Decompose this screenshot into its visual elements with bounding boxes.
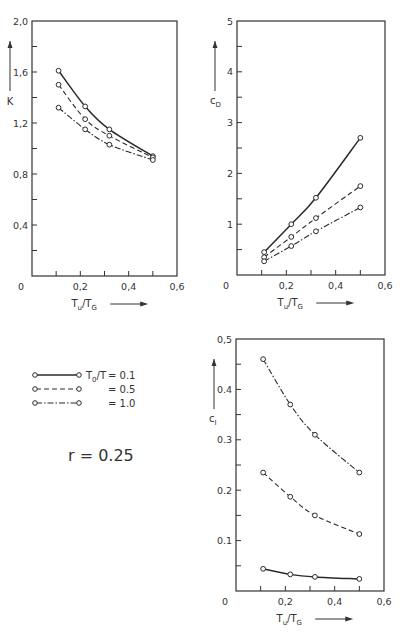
data-point-marker [56, 68, 61, 73]
data-point-marker [262, 250, 267, 255]
x-tick-label: 0,4 [328, 280, 343, 291]
x-tick-label: 0 [18, 281, 24, 292]
data-point-marker [357, 532, 362, 537]
data-point-marker [150, 158, 155, 163]
chart-ci: 00,20,40,60.10.20.30.40,5cITu/TG [209, 334, 392, 628]
data-point-marker [288, 402, 293, 407]
y-axis-label: K [7, 96, 14, 107]
x-tick-label: 0,6 [376, 596, 391, 607]
data-point-marker [83, 104, 88, 109]
data-point-marker [56, 105, 61, 110]
series-line-solid [263, 569, 359, 579]
series-line-dashed [59, 85, 153, 158]
data-point-marker [107, 133, 112, 138]
y-tick-label: 1,2 [13, 118, 28, 129]
legend: = 0.1= 0.5= 1.0T0/T [33, 370, 136, 409]
data-point-marker [313, 513, 318, 518]
x-axis-label: Tu/TG [276, 613, 302, 627]
data-point-marker [289, 222, 294, 227]
y-tick-label: 5 [227, 16, 233, 27]
data-point-marker [289, 235, 294, 240]
data-point-marker [358, 205, 363, 210]
y-tick-label: 3 [227, 117, 233, 128]
data-point-marker [288, 494, 293, 499]
data-point-marker [261, 357, 266, 362]
plot-frame [237, 21, 385, 275]
data-point-marker [261, 470, 266, 475]
y-tick-label: 0.3 [217, 434, 232, 445]
y-tick-label: 2,0 [13, 16, 28, 27]
data-point-marker [107, 127, 112, 132]
y-tick-label: 0,5 [217, 334, 232, 345]
legend-value: = 1.0 [108, 398, 135, 409]
x-tick-label: 0,6 [377, 280, 392, 291]
x-tick-label: 0,6 [169, 281, 184, 292]
data-point-marker [357, 577, 362, 582]
x-tick-label: 0,2 [278, 596, 293, 607]
y-tick-label: 1 [227, 219, 233, 230]
y-tick-label: 0.2 [217, 485, 232, 496]
plot-frame [32, 21, 177, 276]
figure-canvas: 00,20,40,60,40,81,21,62,0KTu/TG 00,20,40… [0, 0, 402, 635]
svg-text:cI: cI [209, 413, 217, 427]
data-point-marker [314, 216, 319, 221]
series-line-solid [264, 138, 360, 252]
legend-value: = 0.1 [108, 370, 135, 381]
data-point-marker [262, 259, 267, 264]
data-point-marker [83, 117, 88, 122]
legend-param-label: T0/T [85, 370, 107, 384]
series-line-dashdot [263, 359, 359, 472]
data-point-marker [357, 470, 362, 475]
data-point-marker [261, 566, 266, 571]
data-point-marker [288, 572, 293, 577]
series-line-dashdot [59, 108, 153, 160]
y-tick-label: 4 [227, 66, 233, 77]
svg-text:cD: cD [210, 95, 221, 109]
x-tick-label: 0,2 [73, 281, 88, 292]
data-point-marker [314, 229, 319, 234]
x-axis-label: Tu/TG [277, 297, 303, 311]
legend-value: = 0.5 [108, 384, 135, 395]
chart-cd: 00,20,40,612345cDTu/TG [210, 16, 393, 312]
data-point-marker [314, 195, 319, 200]
data-point-marker [289, 244, 294, 249]
data-point-marker [313, 432, 318, 437]
series-line-dashed [263, 473, 359, 534]
series-line-dashdot [264, 207, 360, 261]
data-point-marker [107, 142, 112, 147]
plot-frame [236, 339, 384, 591]
x-tick-label: 0,4 [327, 596, 342, 607]
y-tick-label: 1,6 [13, 67, 28, 78]
y-tick-label: 0,4 [13, 220, 28, 231]
data-point-marker [56, 82, 61, 87]
data-point-marker [358, 135, 363, 140]
y-tick-label: 0.1 [217, 535, 232, 546]
series-line-dashed [264, 186, 360, 257]
x-tick-label: 0 [222, 596, 228, 607]
parameter-annotation: r = 0.25 [68, 446, 134, 465]
data-point-marker [313, 574, 318, 579]
x-tick-label: 0 [223, 280, 229, 291]
x-tick-label: 0,2 [279, 280, 294, 291]
y-tick-label: 0,8 [13, 169, 28, 180]
y-tick-label: 2 [227, 168, 233, 179]
data-point-marker [83, 127, 88, 132]
x-tick-label: 0,4 [121, 281, 136, 292]
y-tick-label: 0.4 [217, 384, 232, 395]
chart-k: 00,20,40,60,40,81,21,62,0KTu/TG [7, 16, 185, 313]
data-point-marker [358, 184, 363, 189]
x-axis-label: Tu/TG [70, 298, 96, 312]
